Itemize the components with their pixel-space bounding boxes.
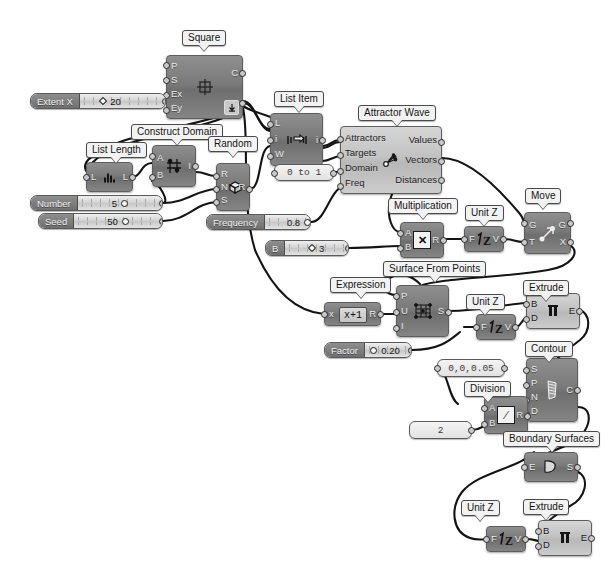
nub[interactable] bbox=[239, 70, 246, 77]
nub[interactable] bbox=[512, 324, 519, 331]
nub[interactable] bbox=[163, 77, 170, 84]
nub[interactable] bbox=[522, 536, 529, 543]
nub[interactable] bbox=[337, 136, 344, 143]
slider-handle[interactable] bbox=[370, 347, 377, 354]
node-unit-z-1[interactable]: F Z V bbox=[464, 226, 504, 252]
nub[interactable] bbox=[267, 153, 274, 160]
node-multiplication[interactable]: A B ✕ R bbox=[400, 222, 444, 258]
slider-number[interactable]: Number 5 bbox=[30, 195, 163, 211]
nub[interactable] bbox=[523, 316, 530, 323]
panel-vector[interactable]: 0,0,0.05 bbox=[437, 359, 505, 377]
port-out-r[interactable]: R bbox=[369, 309, 376, 319]
nub[interactable] bbox=[83, 174, 90, 181]
nub[interactable] bbox=[576, 308, 583, 315]
slider-handle[interactable] bbox=[99, 97, 107, 105]
port-out-e[interactable]: E bbox=[581, 533, 587, 543]
port-out-x[interactable]: X bbox=[560, 237, 566, 247]
node-extrude-1[interactable]: B D E bbox=[526, 293, 580, 329]
port-in-f[interactable]: F bbox=[481, 322, 487, 332]
node-move[interactable]: G T G X bbox=[524, 212, 571, 254]
slider-handle[interactable] bbox=[122, 218, 129, 225]
nub[interactable] bbox=[345, 245, 349, 252]
nub[interactable] bbox=[567, 220, 574, 227]
port-out-s[interactable]: S bbox=[438, 306, 444, 316]
nub[interactable] bbox=[397, 230, 404, 237]
slider-handle[interactable] bbox=[121, 200, 128, 207]
nub[interactable] bbox=[213, 186, 220, 193]
panel-domain[interactable]: 0 to 1 bbox=[274, 164, 334, 181]
slider-factor-track[interactable]: 0.20 bbox=[365, 343, 411, 357]
port-in-a[interactable]: A bbox=[157, 153, 163, 163]
nub[interactable] bbox=[330, 170, 337, 177]
port-in-n[interactable]: N bbox=[531, 392, 538, 402]
port-in-domain[interactable]: Domain bbox=[345, 163, 378, 173]
port-in-w[interactable]: W bbox=[275, 149, 284, 159]
nub[interactable] bbox=[434, 365, 441, 372]
grasshopper-canvas[interactable]: Square List Length Construct Domain Rand… bbox=[0, 0, 610, 572]
port-out-v[interactable]: V bbox=[505, 322, 511, 332]
nub[interactable] bbox=[408, 347, 412, 354]
nub[interactable] bbox=[321, 311, 328, 318]
port-in-b[interactable]: B bbox=[157, 170, 163, 180]
nub[interactable] bbox=[481, 421, 488, 428]
port-in-l[interactable]: L bbox=[275, 118, 280, 128]
nub[interactable] bbox=[246, 186, 253, 193]
port-in-s[interactable]: S bbox=[171, 75, 177, 85]
port-out-g[interactable]: G bbox=[559, 220, 566, 230]
nub[interactable] bbox=[129, 174, 136, 181]
node-construct-domain[interactable]: A B I bbox=[152, 145, 196, 187]
port-in-i[interactable]: I bbox=[401, 321, 404, 331]
port-out-distances[interactable]: Distances bbox=[395, 175, 437, 185]
node-attractor-wave[interactable]: Attractors Targets Domain Freq Values Ve… bbox=[340, 126, 442, 194]
node-surface-from-points[interactable]: P U I S bbox=[396, 285, 449, 337]
port-out-c[interactable]: C bbox=[566, 385, 573, 395]
slider-extent-x[interactable]: Extent X 20 bbox=[30, 93, 166, 109]
nub[interactable] bbox=[481, 405, 488, 412]
nub[interactable] bbox=[163, 107, 170, 114]
nub[interactable] bbox=[159, 218, 163, 225]
nub[interactable] bbox=[440, 237, 447, 244]
node-list-item[interactable]: L i W i bbox=[270, 113, 323, 166]
nub[interactable] bbox=[588, 535, 595, 542]
nub[interactable] bbox=[524, 413, 531, 420]
nub[interactable] bbox=[397, 245, 404, 252]
port-in-b[interactable]: B bbox=[531, 299, 537, 309]
nub[interactable] bbox=[523, 382, 530, 389]
node-boundary-surfaces[interactable]: E S bbox=[524, 452, 578, 482]
square-bake-icon[interactable] bbox=[224, 100, 239, 115]
port-out-l[interactable]: L bbox=[123, 172, 128, 182]
nub[interactable] bbox=[438, 177, 445, 184]
nub[interactable] bbox=[445, 309, 452, 316]
port-out-r[interactable]: R bbox=[432, 235, 439, 245]
port-in-a[interactable]: A bbox=[405, 228, 411, 238]
panel-number[interactable]: 2 bbox=[409, 421, 472, 439]
nub[interactable] bbox=[523, 301, 530, 308]
node-extrude-2[interactable]: B D E bbox=[538, 520, 592, 556]
port-in-e[interactable]: E bbox=[529, 462, 535, 472]
nub[interactable] bbox=[461, 236, 468, 243]
port-in-t[interactable]: T bbox=[529, 237, 535, 247]
nub[interactable] bbox=[501, 365, 508, 372]
port-in-b[interactable]: B bbox=[489, 418, 495, 428]
port-in-i[interactable]: i bbox=[275, 134, 277, 144]
nub[interactable] bbox=[393, 293, 400, 300]
port-in-p[interactable]: P bbox=[171, 61, 177, 71]
port-out-v[interactable]: V bbox=[493, 234, 499, 244]
port-in-d[interactable]: D bbox=[531, 313, 538, 323]
port-in-b[interactable]: B bbox=[405, 242, 411, 252]
nub[interactable] bbox=[567, 239, 574, 246]
node-expression[interactable]: x x+1 R bbox=[324, 302, 381, 326]
nub[interactable] bbox=[500, 236, 507, 243]
node-random[interactable]: R N S R bbox=[216, 163, 250, 211]
port-out-i[interactable]: I bbox=[188, 161, 191, 171]
port-out-values[interactable]: Values bbox=[409, 135, 437, 145]
port-in-r[interactable]: R bbox=[221, 169, 228, 179]
port-in-f[interactable]: F bbox=[469, 234, 475, 244]
slider-seed[interactable]: Seed 50 bbox=[38, 213, 163, 229]
nub[interactable] bbox=[149, 153, 156, 160]
nub[interactable] bbox=[521, 239, 528, 246]
nub[interactable] bbox=[267, 137, 274, 144]
port-in-x[interactable]: x bbox=[329, 309, 334, 319]
nub[interactable] bbox=[337, 152, 344, 159]
nub[interactable] bbox=[159, 200, 163, 207]
